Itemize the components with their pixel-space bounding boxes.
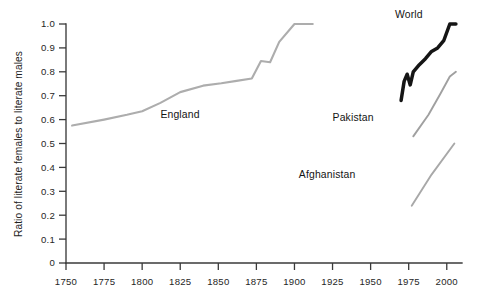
y-tick-label-0.5: 0.5 bbox=[41, 138, 55, 149]
series-annotations: EnglandWorldPakistanAfghanistan bbox=[160, 9, 422, 180]
y-tick-label-0: 0 bbox=[49, 257, 55, 268]
x-tick-label-1850: 1850 bbox=[207, 276, 229, 287]
x-tick-label-1925: 1925 bbox=[321, 276, 343, 287]
y-tick-label-0.8: 0.8 bbox=[41, 66, 55, 77]
x-tick-label-1825: 1825 bbox=[169, 276, 191, 287]
series-line-pakistan bbox=[413, 72, 456, 137]
y-tick-label-0.6: 0.6 bbox=[41, 114, 55, 125]
x-tick-label-1950: 1950 bbox=[359, 276, 381, 287]
y-tick-label-0.7: 0.7 bbox=[41, 90, 55, 101]
y-tick-label-0.1: 0.1 bbox=[41, 234, 55, 245]
y-axis-ticks bbox=[59, 24, 66, 263]
y-tick-label-0.9: 0.9 bbox=[41, 42, 55, 53]
series-layer bbox=[72, 24, 456, 206]
y-tick-label-0.2: 0.2 bbox=[41, 210, 55, 221]
series-label-pakistan: Pakistan bbox=[333, 112, 374, 123]
y-tick-label-0.4: 0.4 bbox=[41, 162, 56, 173]
series-label-england: England bbox=[160, 109, 199, 120]
x-axis-group: 1750177518001825185018751900192519501975… bbox=[55, 263, 462, 287]
y-axis-title: Ratio of literate females to literate ma… bbox=[13, 51, 24, 237]
series-line-afghanistan bbox=[412, 144, 455, 206]
y-axis-tick-labels: 00.10.20.30.40.50.60.70.80.91.0 bbox=[41, 18, 56, 268]
x-tick-label-2000: 2000 bbox=[436, 276, 458, 287]
x-tick-label-1750: 1750 bbox=[55, 276, 77, 287]
series-label-world: World bbox=[395, 9, 423, 20]
chart-container: 00.10.20.30.40.50.60.70.80.91.0 17501775… bbox=[0, 0, 482, 305]
x-tick-label-1900: 1900 bbox=[283, 276, 305, 287]
series-label-afghanistan: Afghanistan bbox=[299, 169, 356, 180]
x-tick-label-1775: 1775 bbox=[93, 276, 115, 287]
x-axis-ticks bbox=[66, 263, 447, 270]
y-axis-group: 00.10.20.30.40.50.60.70.80.91.0 bbox=[41, 18, 66, 268]
series-line-world bbox=[401, 24, 456, 100]
x-tick-label-1800: 1800 bbox=[131, 276, 153, 287]
literacy-ratio-line-chart: 00.10.20.30.40.50.60.70.80.91.0 17501775… bbox=[0, 0, 482, 305]
x-tick-label-1975: 1975 bbox=[398, 276, 420, 287]
x-axis-tick-labels: 1750177518001825185018751900192519501975… bbox=[55, 276, 458, 287]
y-tick-label-0.3: 0.3 bbox=[41, 186, 55, 197]
x-tick-label-1875: 1875 bbox=[245, 276, 267, 287]
y-tick-label-1.0: 1.0 bbox=[41, 18, 55, 29]
